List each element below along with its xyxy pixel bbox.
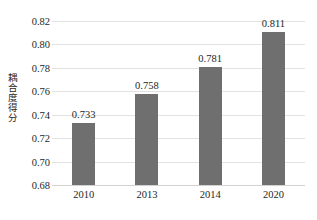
bar-group: 0.758 bbox=[135, 21, 158, 185]
x-axis-tick-label: 2014 bbox=[200, 189, 221, 201]
bar-chart-figure: 耦合度得分 0.680.700.720.740.760.780.800.82 0… bbox=[0, 0, 317, 220]
y-axis-tick-label: 0.74 bbox=[14, 109, 50, 120]
axis-baseline bbox=[52, 185, 305, 186]
x-axis-tick-labels: 2010201320142020 bbox=[52, 189, 305, 203]
bar bbox=[72, 123, 95, 185]
x-axis-tick-label: 2013 bbox=[136, 189, 157, 201]
bar bbox=[262, 32, 285, 185]
bar-group: 0.811 bbox=[262, 21, 285, 185]
bar-value-label: 0.781 bbox=[198, 53, 222, 64]
x-axis-tick-label: 2020 bbox=[263, 189, 284, 201]
bar-value-label: 0.733 bbox=[72, 109, 96, 120]
y-axis-tick-label: 0.68 bbox=[14, 180, 50, 191]
bar bbox=[135, 94, 158, 185]
y-axis-tick-label: 0.80 bbox=[14, 39, 50, 50]
bar-value-label: 0.811 bbox=[262, 18, 285, 29]
x-axis-tick-label: 2010 bbox=[73, 189, 94, 201]
figure-caption bbox=[0, 211, 317, 220]
bar bbox=[199, 67, 222, 185]
y-axis-tick-label: 0.72 bbox=[14, 133, 50, 144]
y-axis-tick-labels: 0.680.700.720.740.760.780.800.82 bbox=[14, 0, 50, 220]
plot-area: 0.7330.7580.7810.811 bbox=[52, 21, 305, 185]
y-axis-tick-label: 0.70 bbox=[14, 156, 50, 167]
y-axis-tick-label: 0.76 bbox=[14, 86, 50, 97]
y-axis-tick-label: 0.82 bbox=[14, 16, 50, 27]
bar-group: 0.781 bbox=[199, 21, 222, 185]
bar-group: 0.733 bbox=[72, 21, 95, 185]
bar-value-label: 0.758 bbox=[135, 80, 159, 91]
y-axis-tick-label: 0.78 bbox=[14, 62, 50, 73]
bars-layer: 0.7330.7580.7810.811 bbox=[52, 21, 305, 185]
